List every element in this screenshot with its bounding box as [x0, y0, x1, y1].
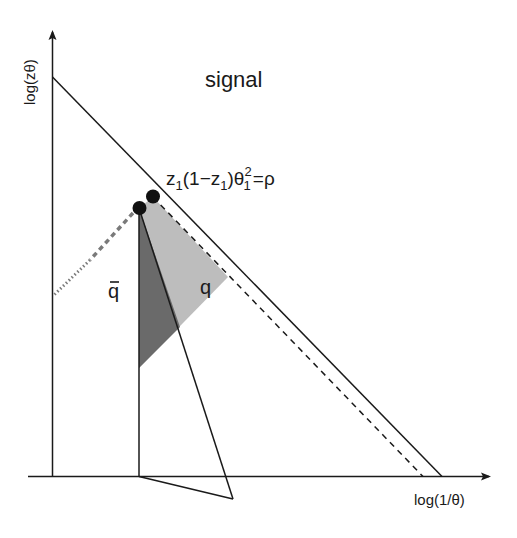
gray-dashed-line	[90, 213, 133, 260]
q-label: q	[200, 276, 211, 298]
lund-plane-diagram: log(zθ) log(1/θ) signal z1(1−z1)θ21=ρ q …	[0, 0, 517, 538]
kinematic-limit-line	[53, 77, 443, 477]
emission-point-1	[146, 190, 160, 204]
x-axis-label: log(1/θ)	[414, 491, 465, 508]
signal-label: signal	[205, 67, 262, 92]
constraint-label: z1(1−z1)θ21=ρ	[166, 164, 275, 193]
y-axis-label: log(zθ)	[21, 59, 38, 105]
dashed-boundary-line	[153, 197, 423, 477]
gray-dotted-line	[54, 260, 90, 295]
triangle-bottom-edge	[139, 477, 233, 500]
emission-point-2	[133, 201, 147, 215]
q-bar-label: q	[108, 280, 119, 302]
